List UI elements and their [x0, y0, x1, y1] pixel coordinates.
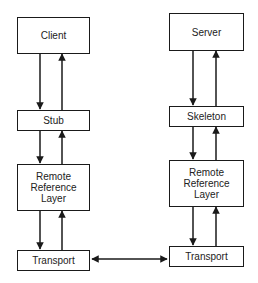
client-label: Client: [41, 30, 67, 41]
skeleton-label: Skeleton: [187, 111, 226, 122]
stub-box: Stub: [17, 110, 90, 131]
client-transport-label: Transport: [32, 255, 74, 266]
skeleton-box: Skeleton: [169, 106, 244, 127]
server-box: Server: [169, 13, 244, 51]
server-transport-box: Transport: [169, 246, 244, 267]
client-remote-reference-layer-label: Remote Reference Layer: [30, 171, 76, 204]
server-remote-reference-layer-box: Remote Reference Layer: [169, 160, 244, 207]
client-remote-reference-layer-box: Remote Reference Layer: [17, 164, 90, 211]
stub-label: Stub: [43, 115, 64, 126]
client-box: Client: [17, 17, 90, 54]
server-transport-label: Transport: [185, 251, 227, 262]
client-transport-box: Transport: [17, 250, 90, 271]
server-label: Server: [192, 27, 221, 38]
server-remote-reference-layer-label: Remote Reference Layer: [183, 167, 229, 200]
